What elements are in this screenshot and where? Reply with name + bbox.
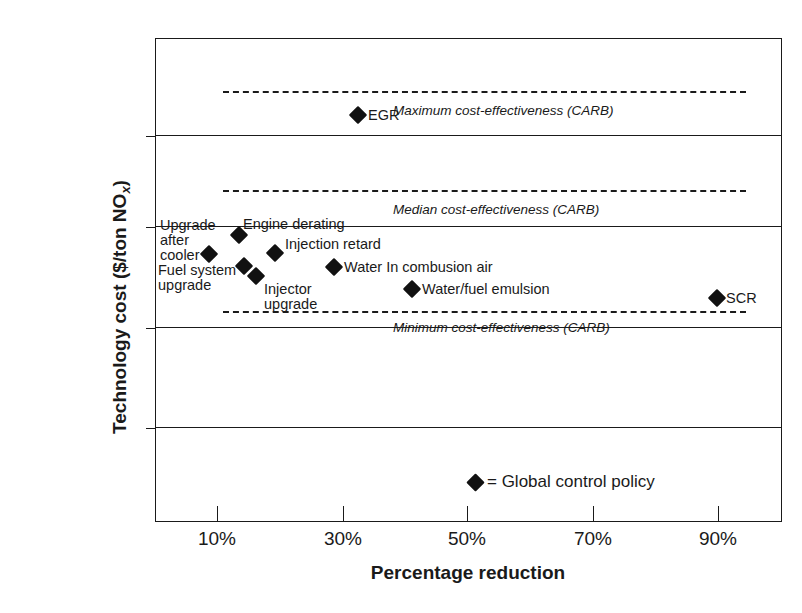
legend-diamond-icon — [466, 473, 484, 491]
x-tick-mark-10 — [217, 506, 218, 522]
plot-area: Maximum cost-effectiveness (CARB) Median… — [155, 38, 782, 522]
data-label-engine-derating: Engine derating — [243, 216, 345, 232]
x-tick-mark-90 — [718, 506, 719, 522]
y-tick-mark-100 — [146, 328, 155, 329]
data-label-water-in-combustion-air: Water In combusion air — [344, 259, 493, 275]
data-point-water-in-combustion-air[interactable] — [325, 258, 343, 276]
data-label-injector-upgrade-line1: Injector — [264, 281, 312, 297]
data-label-injector-upgrade-line2: upgrade — [264, 296, 317, 312]
data-point-water-fuel-emulsion[interactable] — [403, 280, 421, 298]
gridline-10000 — [156, 135, 781, 136]
reference-label-minimum: Minimum cost-effectiveness (CARB) — [393, 320, 610, 335]
reference-label-maximum: Maximum cost-effectiveness (CARB) — [393, 103, 614, 118]
y-axis-title-subscript: x — [118, 186, 133, 193]
y-axis-title-close: ) — [109, 180, 130, 186]
x-tick-label-70: 70% — [574, 528, 612, 550]
x-tick-label-10: 10% — [198, 528, 236, 550]
y-tick-mark-1000 — [146, 227, 155, 228]
data-label-upgrade-after-cooler-line3: cooler — [160, 247, 200, 263]
x-tick-mark-50 — [467, 506, 468, 522]
data-point-upgrade-after-cooler[interactable] — [200, 245, 218, 263]
x-tick-label-50: 50% — [448, 528, 486, 550]
data-label-fuel-system-upgrade-line2: upgrade — [158, 277, 211, 293]
data-label-upgrade-after-cooler-line2: after — [160, 232, 189, 248]
x-tick-label-90: 90% — [699, 528, 737, 550]
data-label-scr: SCR — [726, 290, 757, 306]
data-label-egr: EGR — [368, 107, 399, 123]
data-label-water-fuel-emulsion: Water/fuel emulsion — [422, 281, 550, 297]
gridline-10 — [156, 427, 781, 428]
data-point-egr[interactable] — [349, 106, 367, 124]
data-point-injection-retard[interactable] — [266, 244, 284, 262]
reference-line-maximum — [223, 91, 746, 93]
legend-label: = Global control policy — [487, 472, 655, 492]
y-tick-mark-10 — [146, 428, 155, 429]
y-axis-title-main: Technology cost ($/ton NO — [109, 193, 130, 433]
data-label-injection-retard: Injection retard — [285, 236, 381, 252]
y-axis-title: Technology cost ($/ton NOx) — [109, 180, 134, 434]
chart-figure: Technology cost ($/ton NOx) $100,000 $10… — [0, 0, 802, 613]
reference-line-median — [223, 190, 746, 192]
x-tick-mark-70 — [593, 506, 594, 522]
data-label-fuel-system-upgrade-line1: Fuel system — [158, 262, 236, 278]
x-axis-title: Percentage reduction — [371, 562, 565, 584]
chart-legend: = Global control policy — [469, 472, 655, 492]
x-tick-mark-30 — [343, 506, 344, 522]
data-point-scr[interactable] — [708, 289, 726, 307]
data-label-upgrade-after-cooler-line1: Upgrade — [160, 217, 216, 233]
x-tick-label-30: 30% — [324, 528, 362, 550]
y-tick-mark-10000 — [146, 136, 155, 137]
reference-label-median: Median cost-effectiveness (CARB) — [393, 202, 599, 217]
